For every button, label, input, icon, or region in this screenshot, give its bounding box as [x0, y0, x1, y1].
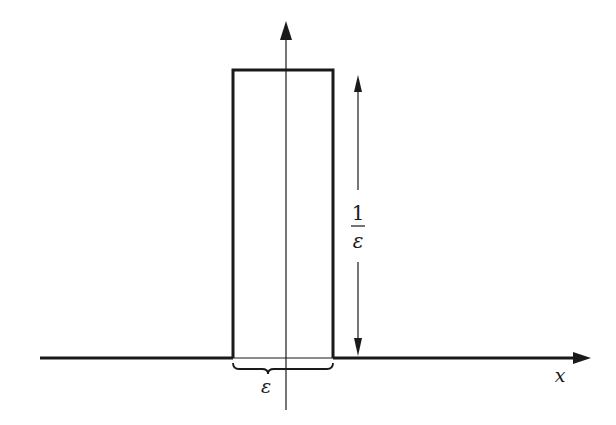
pulse-rectangle [233, 70, 333, 358]
height-arrow-up-icon [354, 75, 362, 92]
x-axis-label: x [555, 364, 566, 386]
x-axis-arrow-icon [573, 352, 591, 364]
height-dimension: 1 ε [351, 75, 365, 356]
y-axis-arrow-icon [280, 21, 292, 40]
pulse-diagram: 1 ε ε x [0, 0, 616, 425]
height-arrow-down-icon [354, 338, 362, 356]
width-label: ε [261, 375, 271, 397]
height-label-denominator: ε [353, 229, 364, 253]
width-brace: ε [233, 363, 333, 397]
x-axis [40, 352, 591, 364]
brace-icon [233, 363, 333, 374]
y-axis [280, 21, 292, 410]
height-label-numerator: 1 [352, 201, 365, 225]
